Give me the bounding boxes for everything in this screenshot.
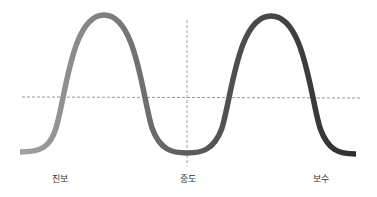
label-progressive: 진보: [52, 172, 69, 185]
label-moderate: 중도: [180, 172, 197, 185]
horizontal-dashed-line: [22, 97, 360, 98]
label-conservative: 보수: [313, 172, 330, 185]
bimodal-distribution-diagram: [0, 0, 377, 197]
bimodal-curve: [20, 15, 356, 154]
